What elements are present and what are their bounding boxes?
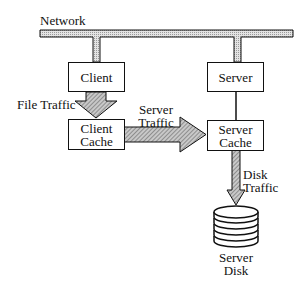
server-disk-label: Server Disk: [206, 251, 266, 277]
server-disk-label-2: Disk: [206, 264, 266, 277]
server-traffic-label-2: Traffic: [131, 116, 181, 129]
network-bus: [40, 30, 293, 62]
server-cache-node: Server Cache: [207, 120, 264, 151]
client-label: Client: [81, 71, 113, 84]
disk-traffic-label-2: Traffic: [243, 181, 278, 194]
file-traffic-arrow: [75, 92, 117, 118]
client-cache-label-1: Client: [81, 122, 113, 135]
server-cache-label-1: Server: [219, 123, 253, 136]
client-node: Client: [68, 62, 125, 92]
server-node: Server: [207, 62, 264, 92]
disk-stack-icon: [214, 206, 258, 247]
disk-traffic-label: Disk Traffic: [243, 168, 278, 194]
file-traffic-label: File Traffic: [17, 98, 76, 111]
client-cache-node: Client Cache: [68, 119, 125, 150]
server-cache-label-2: Cache: [219, 136, 251, 149]
server-traffic-label: Server Traffic: [131, 103, 181, 129]
client-cache-label-2: Cache: [80, 135, 112, 148]
network-label: Network: [40, 14, 86, 27]
server-label: Server: [219, 71, 253, 84]
